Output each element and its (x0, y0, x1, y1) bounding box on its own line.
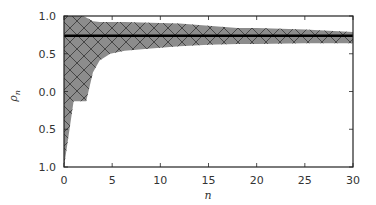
y-tick-label: 0.5 (39, 123, 57, 136)
x-tick-label: 30 (346, 174, 360, 187)
y-tick-label: 1.0 (39, 161, 57, 174)
x-tick-label: 15 (202, 174, 216, 187)
y-tick-label: 0.5 (39, 48, 57, 61)
x-tick-label: 10 (153, 174, 167, 187)
chart: 051015202530 1.00.50.00.51.0 n ρn (0, 0, 376, 205)
svg-text:ρn: ρn (7, 90, 22, 103)
x-tick-label: 5 (109, 174, 116, 187)
y-tick-label: 0.0 (39, 86, 57, 99)
y-axis-label: ρn (7, 90, 22, 103)
confidence-band-hatch (64, 16, 353, 167)
x-tick-label: 25 (298, 174, 312, 187)
x-axis-label: n (204, 189, 211, 202)
y-tick-label: 1.0 (39, 10, 57, 23)
x-tick-label: 20 (250, 174, 264, 187)
x-tick-label: 0 (61, 174, 68, 187)
